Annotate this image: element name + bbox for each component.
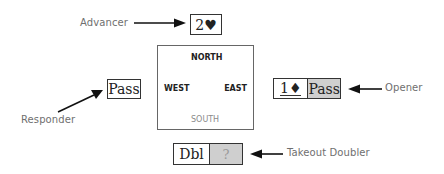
east-second-bid: Pass (307, 79, 340, 98)
east-first-bid: 1♦ (274, 79, 307, 98)
advancer-arrow-icon (132, 18, 188, 28)
east-bid-box: 1♦ Pass (273, 78, 341, 99)
advancer-label: Advancer (80, 17, 128, 28)
north-bid: 2♥ (191, 15, 221, 34)
seat-north: NORTH (191, 53, 222, 62)
responder-label: Responder (21, 114, 75, 125)
north-bid-box: 2♥ (190, 14, 222, 35)
responder-arrow-icon (56, 88, 106, 114)
south-bid-box: Dbl ? (173, 143, 243, 165)
south-second-bid: ? (209, 144, 242, 164)
bridge-table: NORTH WEST EAST SOUTH (157, 45, 254, 130)
seat-south: SOUTH (191, 115, 219, 124)
west-bid-box: Pass (107, 79, 141, 99)
west-bid: Pass (108, 80, 140, 98)
seat-east: EAST (224, 84, 247, 93)
takeout-doubler-arrow-icon (250, 149, 286, 159)
opener-arrow-icon (348, 84, 384, 94)
opener-label: Opener (385, 82, 423, 93)
seat-west: WEST (164, 84, 190, 93)
south-first-bid: Dbl (174, 144, 209, 164)
takeout-doubler-label: Takeout Doubler (287, 147, 370, 158)
east-first-bid-text: 1♦ (280, 81, 301, 96)
